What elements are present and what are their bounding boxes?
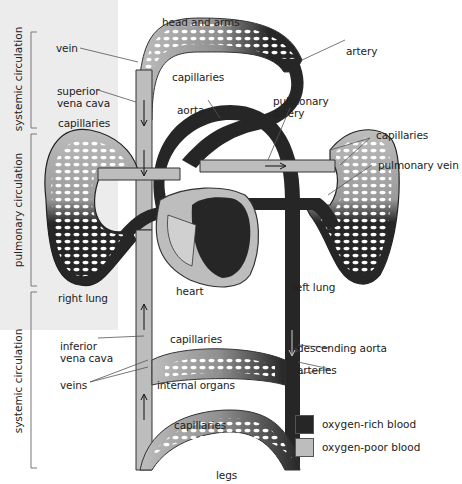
inferior-vena-cava xyxy=(136,230,152,470)
right-lung xyxy=(45,129,140,285)
label-heart: heart xyxy=(176,285,203,297)
label-superior-vena-cava-2: vena cava xyxy=(57,97,110,109)
label-pulmonary-vein: pulmonary vein xyxy=(378,159,459,171)
legend-item-oxygen-rich: oxygen-rich blood xyxy=(295,414,420,434)
label-right-lung: right lung xyxy=(58,292,108,304)
label-veins: veins xyxy=(60,379,87,391)
label-capillaries-organs: capillaries xyxy=(170,333,222,345)
bracket-lines xyxy=(31,32,37,468)
legend-label-oxygen-rich: oxygen-rich blood xyxy=(322,418,416,430)
label-pulmonary-artery-1: pulmonary xyxy=(273,95,329,107)
label-arteries: arteries xyxy=(297,364,337,376)
label-head-and-arms: head and arms xyxy=(162,16,240,28)
bracket-label-systemic-top: systemic circulation xyxy=(12,24,24,134)
swatch-oxygen-rich xyxy=(295,415,314,434)
legend-label-oxygen-poor: oxygen-poor blood xyxy=(322,441,420,453)
pulmonary-artery-right xyxy=(98,168,180,180)
label-inferior-vena-cava-1: inferior xyxy=(60,340,97,352)
label-artery: artery xyxy=(346,45,377,57)
circulation-diagram xyxy=(0,0,462,484)
label-inferior-vena-cava-2: vena cava xyxy=(60,352,113,364)
label-pulmonary-artery-2: artery xyxy=(273,107,304,119)
label-capillaries-head: capillaries xyxy=(172,71,224,83)
label-vein: vein xyxy=(56,42,78,54)
label-legs: legs xyxy=(216,469,237,481)
label-aorta: aorta xyxy=(177,104,204,116)
label-capillaries-lung: capillaries xyxy=(58,117,110,129)
swatch-oxygen-poor xyxy=(295,438,314,457)
label-left-lung: left lung xyxy=(293,281,335,293)
legend-item-oxygen-poor: oxygen-poor blood xyxy=(295,437,420,457)
bracket-label-systemic-bottom: systemic circulation xyxy=(12,326,24,436)
label-internal-organs: internal organs xyxy=(157,379,235,391)
label-descending-aorta: descending aorta xyxy=(297,342,387,354)
bracket-label-pulmonary: pulmonary circulation xyxy=(12,148,24,272)
heart xyxy=(156,188,258,287)
label-capillaries-legs: capillaries xyxy=(174,419,226,431)
label-superior-vena-cava-1: superior xyxy=(57,85,99,97)
legend: oxygen-rich blood oxygen-poor blood xyxy=(295,414,420,460)
label-capillaries-right: capillaries xyxy=(376,129,428,141)
